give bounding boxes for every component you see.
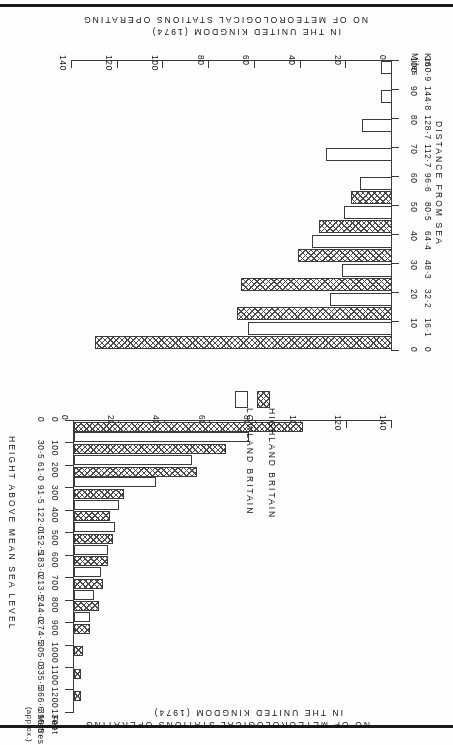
category-tick [391, 205, 399, 206]
legend-label-lowland: LOWLAND BRITAIN [245, 408, 255, 515]
bar-highland [74, 691, 81, 701]
category-tick [65, 600, 73, 601]
category-tick-label-km: 0 [423, 348, 433, 353]
axis-tick-label: 60 [241, 55, 251, 66]
category-tick [65, 555, 73, 556]
axis-tick-label: 80 [196, 55, 206, 66]
category-tick [391, 89, 399, 90]
bar-highland [74, 646, 83, 656]
bar-highland [237, 308, 392, 321]
bar-highland [74, 579, 104, 589]
category-tick-label-metres: 61·0 [36, 462, 46, 481]
distance-chart-value-axis [72, 60, 392, 61]
distance-chart-unit-miles: Miles [410, 53, 420, 76]
category-tick [391, 321, 399, 322]
bar-lowland [360, 178, 392, 191]
legend-swatch-lowland [235, 391, 248, 408]
category-tick-label-km: 80·5 [423, 203, 433, 222]
axis-tick-label: 140 [59, 55, 69, 71]
bar-lowland [381, 62, 392, 75]
bar-highland [95, 337, 392, 350]
category-tick [391, 350, 399, 351]
height-chart-axis-title: HEIGHT ABOVE MEAN SEA LEVEL [7, 436, 17, 631]
category-tick-label-km: 128·7 [423, 116, 433, 141]
height-chart-value-axis-title-line2: IN THE UNITED KINGDOM (1974) [153, 708, 343, 718]
category-tick-label-metres: 183·0 [36, 552, 46, 577]
bar-lowland [74, 500, 119, 510]
category-tick-label-miles: 80 [409, 116, 419, 127]
axis-tick [391, 420, 392, 428]
axis-tick-label: 120 [104, 55, 114, 71]
category-tick-label-metres: 305·0 [36, 642, 46, 667]
category-tick-label-feet: 0 [50, 418, 60, 423]
category-tick-label-metres: 244·0 [36, 597, 46, 622]
legend-label-highland: HIGHLAND BRITAIN [267, 408, 277, 519]
category-tick [65, 645, 73, 646]
chart-distance-from-sea: 020406080100120140 001016·12032·23048·34… [0, 0, 453, 371]
bar-lowland [312, 236, 392, 249]
category-tick [65, 622, 73, 623]
bar-highland [74, 556, 108, 566]
category-tick-label-miles: 0 [409, 348, 419, 353]
category-tick [391, 263, 399, 264]
bar-lowland [330, 294, 392, 307]
height-chart-unit-metres: Metres [36, 715, 46, 745]
category-tick-label-metres: 274·5 [36, 620, 46, 645]
category-tick-label-miles: 30 [409, 261, 419, 272]
category-tick-label-feet: 500 [50, 530, 60, 546]
bar-lowland [74, 612, 90, 622]
axis-tick-label: 120 [333, 415, 343, 431]
category-tick-label-feet: 100 [50, 440, 60, 456]
category-tick [65, 667, 73, 668]
axis-tick [346, 420, 347, 428]
bar-highland [74, 467, 197, 477]
category-tick-label-metres: 30·5 [36, 440, 46, 459]
category-tick [65, 443, 73, 444]
bar-lowland [74, 522, 115, 532]
category-tick-label-km: 32·2 [423, 290, 433, 309]
bar-lowland [248, 323, 392, 336]
category-tick [65, 465, 73, 466]
axis-tick [162, 60, 163, 68]
category-tick [391, 234, 399, 235]
category-tick-label-feet: 300 [50, 485, 60, 501]
axis-tick-label: 100 [150, 55, 160, 71]
axis-tick [71, 60, 72, 68]
category-tick-label-metres: 152·5 [36, 530, 46, 555]
bar-highland [74, 444, 226, 454]
category-tick [65, 690, 73, 691]
bar-highland [351, 192, 392, 205]
category-tick-label-miles: 40 [409, 232, 419, 243]
category-tick-label-feet: 800 [50, 597, 60, 613]
bar-highland [319, 221, 392, 234]
category-tick-label-feet: 1100 [50, 665, 60, 686]
category-tick-label-feet: 700 [50, 575, 60, 591]
category-tick-label-metres: 91·5 [36, 485, 46, 504]
distance-chart-axis-title: DISTANCE FROM SEA [434, 121, 444, 246]
category-tick [65, 712, 73, 713]
category-tick [391, 60, 399, 61]
bar-lowland [74, 455, 192, 465]
category-tick-label-metres: 335·5 [36, 665, 46, 690]
category-tick-label-feet: 400 [50, 507, 60, 523]
distance-chart-value-axis-title-line2: IN THE UNITED KINGDOM (1974) [151, 27, 341, 37]
bar-lowland [362, 120, 392, 133]
category-tick-label-miles: 70 [409, 145, 419, 156]
bar-highland [74, 489, 124, 499]
category-tick-label-km: 16·1 [423, 319, 433, 338]
category-tick-label-miles: 50 [409, 203, 419, 214]
axis-tick [117, 60, 118, 68]
bar-lowland [381, 91, 392, 104]
category-tick [65, 510, 73, 511]
category-tick-label-feet: 600 [50, 552, 60, 568]
distance-chart-unit-km: Km [423, 53, 433, 67]
bar-lowland [74, 567, 101, 577]
bar-lowland [74, 477, 156, 487]
axis-tick-label: 40 [287, 55, 297, 66]
category-tick-label-km: 48·3 [423, 261, 433, 280]
category-tick-label-km: 112·7 [423, 145, 433, 169]
category-tick-label-km: 144·8 [423, 87, 433, 112]
category-tick [391, 147, 399, 148]
bar-lowland [74, 590, 94, 600]
